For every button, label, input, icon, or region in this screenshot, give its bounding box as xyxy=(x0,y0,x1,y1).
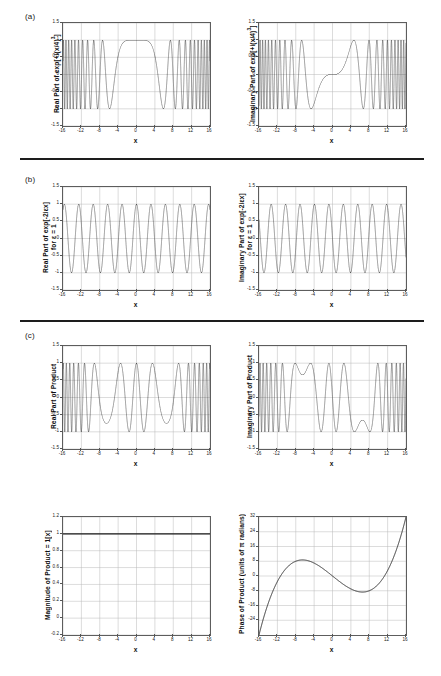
xtick-label-c-real-6: 8 xyxy=(162,451,182,456)
xtick-label-b-imag-2: -8 xyxy=(285,292,305,297)
ytick-mark-b-real-5 xyxy=(60,272,63,273)
xtick-label-b-imag-5: 4 xyxy=(340,292,360,297)
xtick-mark-b-real-2 xyxy=(99,289,100,292)
xtick-mark-a-real-6 xyxy=(172,125,173,128)
xtick-label-phase-1: -12 xyxy=(266,637,286,642)
xtick-mark-b-imag-0 xyxy=(258,289,259,292)
figure-root: (a) (b) (c) 1.510.50-0.5-1-1.5-16-12-8-4… xyxy=(0,0,441,676)
xtick-mark-b-imag-4 xyxy=(332,289,333,292)
xtick-mark-a-real-7 xyxy=(191,125,192,128)
xtick-label-a-real-7: 12 xyxy=(181,128,201,133)
xtick-mark-c-imag-4 xyxy=(332,448,333,451)
ytick-mark-b-imag-2 xyxy=(256,220,259,221)
xtick-mark-b-real-5 xyxy=(154,289,155,292)
ytick-mark-phase-5 xyxy=(256,590,259,591)
xtick-label-c-imag-5: 4 xyxy=(340,451,360,456)
xtick-label-b-real-8: 16 xyxy=(199,292,219,297)
xtick-mark-b-real-0 xyxy=(62,289,63,292)
xtick-mark-c-real-0 xyxy=(62,448,63,451)
xtick-label-phase-7: 12 xyxy=(377,637,397,642)
ytick-mark-c-real-4 xyxy=(60,414,63,415)
ytick-mark-phase-2 xyxy=(256,546,259,547)
xtick-label-a-imag-4: 0 xyxy=(322,128,342,133)
axes-frame-b-imag xyxy=(258,186,407,291)
axes-frame-magnitude xyxy=(62,516,211,636)
xtick-label-c-real-0: -16 xyxy=(52,451,72,456)
xtick-label-c-imag-7: 12 xyxy=(377,451,397,456)
xtick-label-b-imag-0: -16 xyxy=(248,292,268,297)
ytick-mark-c-imag-1 xyxy=(256,362,259,363)
ytick-mark-phase-6 xyxy=(256,605,259,606)
xtick-label-phase-5: 4 xyxy=(340,637,360,642)
xtick-mark-b-real-7 xyxy=(191,289,192,292)
xtick-mark-a-real-5 xyxy=(154,125,155,128)
xtick-mark-phase-7 xyxy=(387,634,388,637)
xtick-label-a-real-8: 16 xyxy=(199,128,219,133)
xtick-mark-a-real-4 xyxy=(136,125,137,128)
ytick-mark-c-real-2 xyxy=(60,379,63,380)
xaxis-label-b-real: x xyxy=(62,301,209,308)
xtick-mark-phase-3 xyxy=(313,634,314,637)
xtick-label-c-real-2: -8 xyxy=(89,451,109,456)
xtick-mark-magnitude-6 xyxy=(172,634,173,637)
ytick-mark-magnitude-5 xyxy=(60,600,63,601)
xtick-mark-a-imag-7 xyxy=(387,125,388,128)
ytick-mark-c-imag-0 xyxy=(256,345,259,346)
xtick-label-c-imag-3: -4 xyxy=(303,451,323,456)
ytick-mark-magnitude-0 xyxy=(60,516,63,517)
xtick-mark-a-real-2 xyxy=(99,125,100,128)
xtick-mark-c-imag-5 xyxy=(350,448,351,451)
ytick-mark-phase-7 xyxy=(256,619,259,620)
xtick-label-b-real-5: 4 xyxy=(144,292,164,297)
xtick-mark-a-real-3 xyxy=(117,125,118,128)
xtick-label-b-imag-7: 12 xyxy=(377,292,397,297)
xtick-label-magnitude-4: 0 xyxy=(126,637,146,642)
yaxis-label-c-imag: Imaginary Part of Product xyxy=(246,345,254,448)
panel-letter-b: (b) xyxy=(25,175,35,184)
ytick-mark-magnitude-4 xyxy=(60,583,63,584)
xtick-label-magnitude-6: 8 xyxy=(162,637,182,642)
xtick-label-a-imag-5: 4 xyxy=(340,128,360,133)
xtick-label-b-real-2: -8 xyxy=(89,292,109,297)
ytick-mark-b-imag-5 xyxy=(256,272,259,273)
xtick-label-b-imag-1: -12 xyxy=(266,292,286,297)
xtick-label-c-imag-6: 8 xyxy=(358,451,378,456)
xtick-label-a-real-1: -12 xyxy=(70,128,90,133)
xtick-mark-phase-0 xyxy=(258,634,259,637)
xtick-mark-b-imag-1 xyxy=(276,289,277,292)
xtick-label-magnitude-8: 16 xyxy=(199,637,219,642)
xtick-mark-c-imag-0 xyxy=(258,448,259,451)
xtick-label-b-real-1: -12 xyxy=(70,292,90,297)
ytick-mark-b-real-2 xyxy=(60,220,63,221)
xtick-label-magnitude-3: -4 xyxy=(107,637,127,642)
divider-rule-b-c xyxy=(20,320,424,322)
xtick-mark-c-real-3 xyxy=(117,448,118,451)
panel-letter-a: (a) xyxy=(25,12,35,21)
xtick-label-a-real-2: -8 xyxy=(89,128,109,133)
xtick-mark-c-imag-8 xyxy=(405,448,406,451)
ytick-mark-b-imag-1 xyxy=(256,203,259,204)
xtick-mark-a-imag-1 xyxy=(276,125,277,128)
ytick-mark-c-imag-4 xyxy=(256,414,259,415)
xtick-mark-a-imag-2 xyxy=(295,125,296,128)
xtick-label-b-imag-8: 16 xyxy=(395,292,415,297)
xtick-mark-c-real-8 xyxy=(209,448,210,451)
ytick-mark-c-imag-3 xyxy=(256,397,259,398)
xtick-mark-b-imag-2 xyxy=(295,289,296,292)
xtick-label-phase-0: -16 xyxy=(248,637,268,642)
xtick-label-c-real-3: -4 xyxy=(107,451,127,456)
xtick-label-a-real-0: -16 xyxy=(52,128,72,133)
xtick-label-c-real-4: 0 xyxy=(126,451,146,456)
xtick-mark-c-real-2 xyxy=(99,448,100,451)
ytick-mark-b-real-4 xyxy=(60,255,63,256)
xtick-label-b-imag-6: 8 xyxy=(358,292,378,297)
axes-frame-c-imag xyxy=(258,345,407,450)
xtick-mark-c-imag-3 xyxy=(313,448,314,451)
xtick-mark-b-imag-5 xyxy=(350,289,351,292)
xtick-mark-c-real-7 xyxy=(191,448,192,451)
xtick-label-a-real-3: -4 xyxy=(107,128,127,133)
xtick-mark-b-imag-6 xyxy=(368,289,369,292)
xtick-mark-magnitude-5 xyxy=(154,634,155,637)
xtick-mark-c-real-6 xyxy=(172,448,173,451)
yaxis-label-b-real: Real Part of exp[-2iεx]for ε = 1 xyxy=(42,186,58,289)
